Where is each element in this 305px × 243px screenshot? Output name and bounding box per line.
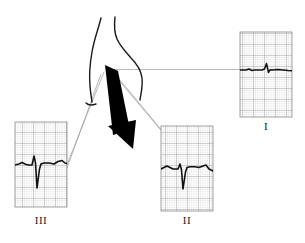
lead-label-II: II (160, 214, 214, 226)
lead-label-III: III (14, 214, 68, 226)
ecg-panel-lead-I (240, 32, 292, 117)
ecg-panel-lead-II (161, 126, 213, 211)
ecg-panel-lead-III (15, 122, 67, 207)
lead-label-I: I (240, 120, 292, 132)
ecg-paper-I (240, 32, 292, 117)
